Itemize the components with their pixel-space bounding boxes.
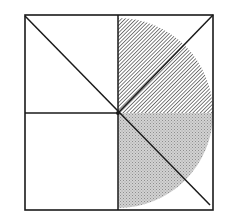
half-disc <box>118 18 213 208</box>
center-point <box>116 111 120 115</box>
geometry-diagram <box>0 0 231 224</box>
diagram-canvas <box>0 0 231 224</box>
